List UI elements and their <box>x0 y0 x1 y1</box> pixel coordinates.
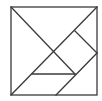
tangram-svg <box>0 0 102 101</box>
diagonal-top-left-to-center <box>11 7 75 74</box>
square-piece-edge <box>75 31 97 53</box>
tangram-diagram <box>0 0 102 101</box>
